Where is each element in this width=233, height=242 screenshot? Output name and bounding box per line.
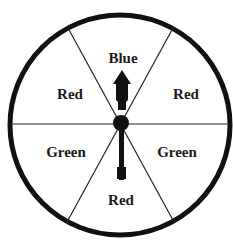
section-label-lower-right: Green (157, 144, 197, 160)
section-label-upper-left: Red (57, 86, 83, 102)
section-label-upper-right: Red (173, 86, 199, 102)
section-label-top: Blue (108, 50, 138, 66)
section-label-bottom: Red (108, 192, 134, 208)
arrow-tail (117, 167, 126, 179)
spinner-pivot (113, 115, 129, 131)
spinner-diagram: Blue Red Green Red Green Red (0, 0, 233, 242)
section-label-lower-left: Green (46, 144, 86, 160)
